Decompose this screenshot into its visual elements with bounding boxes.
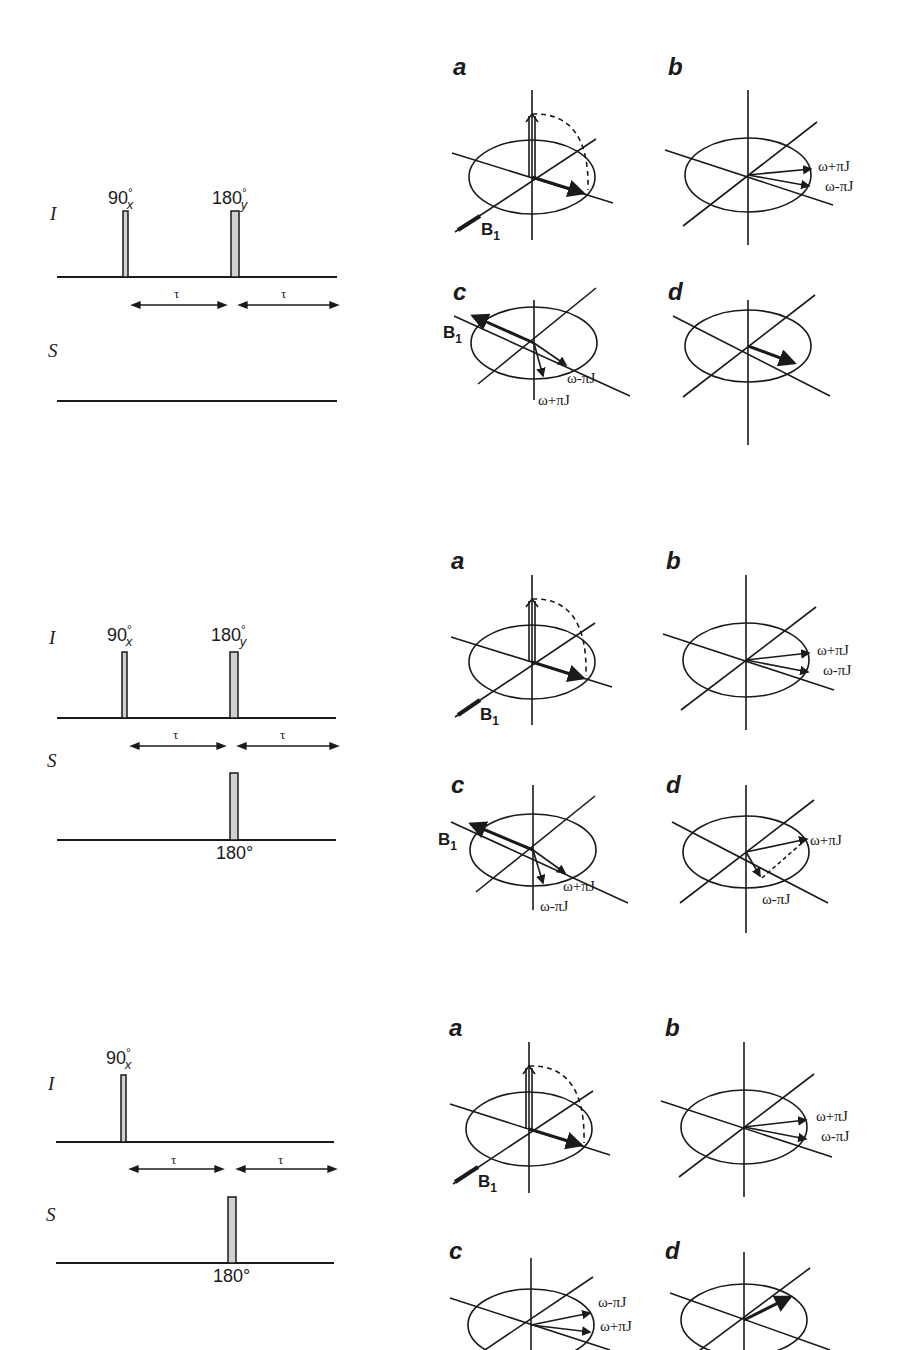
freq-label-b-upper: ω+πJ bbox=[816, 1108, 848, 1125]
freq-label-c-a: ω+πJ bbox=[563, 878, 595, 895]
freq-label-c-b: ω+πJ bbox=[600, 1318, 632, 1335]
freq-label-c-a: ω-πJ bbox=[567, 370, 595, 387]
subpanel-label-d: d bbox=[665, 1237, 680, 1265]
subpanel-label-a: a bbox=[453, 53, 466, 81]
b1-label-a: B1 bbox=[481, 220, 500, 243]
b1-label-a: B1 bbox=[480, 705, 499, 728]
subpanel-label-b: b bbox=[665, 1014, 680, 1042]
freq-label-c-b: ω-πJ bbox=[540, 898, 568, 915]
subpanel-label-a: a bbox=[451, 547, 464, 575]
subpanel-label-d: d bbox=[668, 278, 683, 306]
subpanel-label-b: b bbox=[668, 53, 683, 81]
subpanel-label-b: b bbox=[666, 547, 681, 575]
freq-label-b-lower: ω-πJ bbox=[825, 178, 853, 195]
subpanel-label-c: c bbox=[453, 278, 466, 306]
subpanel-label-c: c bbox=[451, 771, 464, 799]
freq-label-b-lower: ω-πJ bbox=[823, 662, 851, 679]
panel-2: I S 90°x 180°y 180° τ τ bbox=[0, 540, 899, 960]
freq-label-b-upper: ω+πJ bbox=[818, 158, 850, 175]
b1-label-c: B1 bbox=[443, 323, 462, 346]
vector-diagrams bbox=[0, 1000, 899, 1350]
freq-label-d-b: ω-πJ bbox=[762, 891, 790, 908]
vector-diagrams bbox=[0, 0, 899, 460]
freq-label-b-lower: ω-πJ bbox=[821, 1128, 849, 1145]
freq-label-c-b: ω+πJ bbox=[538, 392, 570, 409]
freq-label-d-a: ω+πJ bbox=[810, 832, 842, 849]
freq-label-c-a: ω-πJ bbox=[598, 1294, 626, 1311]
b1-label-a: B1 bbox=[478, 1172, 497, 1195]
panel-1: I S 90°x 180°y τ τ bbox=[0, 0, 899, 460]
subpanel-label-d: d bbox=[666, 771, 681, 799]
subpanel-label-a: a bbox=[449, 1014, 462, 1042]
subpanel-label-c: c bbox=[449, 1237, 462, 1265]
b1-label-c: B1 bbox=[438, 830, 457, 853]
panel-3: I S 90°x 180° τ τ bbox=[0, 1000, 899, 1350]
freq-label-b-upper: ω+πJ bbox=[817, 642, 849, 659]
